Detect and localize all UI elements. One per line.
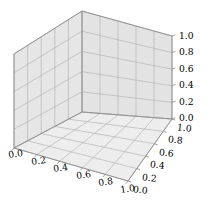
y-tick-label: 0.8 <box>168 133 184 145</box>
x-tick-label: 0.2 <box>31 154 47 167</box>
z-tick-label: 0.6 <box>179 63 194 74</box>
z-tick-label: 0.2 <box>179 96 194 107</box>
z-tick-label: 0.8 <box>179 46 194 57</box>
x-tick-label: 0.6 <box>76 168 92 181</box>
z-tick-label: 0.0 <box>179 112 194 123</box>
z-tick-label: 0.4 <box>179 79 194 90</box>
y-tick-label: 0.6 <box>159 146 175 158</box>
y-tick-label: 0.4 <box>150 158 166 170</box>
pane-back-right <box>82 11 172 119</box>
x-tick-label: 0.8 <box>98 175 114 188</box>
axes-3d-canvas[interactable]: 0.0 0.2 0.4 0.6 0.8 1.0 1.0 0.8 0.6 0.4 … <box>0 0 209 205</box>
z-tick-labels: 1.0 0.8 0.6 0.4 0.2 0.0 <box>179 30 194 123</box>
y-tick-label: 1.0 <box>177 121 193 133</box>
x-tick-label: 0.4 <box>53 161 69 174</box>
x-tick-label: 0.0 <box>8 147 24 160</box>
y-tick-label: 0.2 <box>142 171 158 183</box>
y-tick-label: 0.0 <box>133 183 149 195</box>
z-tick-label: 1.0 <box>179 30 194 41</box>
matplotlib-figure: 0.0 0.2 0.4 0.6 0.8 1.0 1.0 0.8 0.6 0.4 … <box>0 0 209 205</box>
